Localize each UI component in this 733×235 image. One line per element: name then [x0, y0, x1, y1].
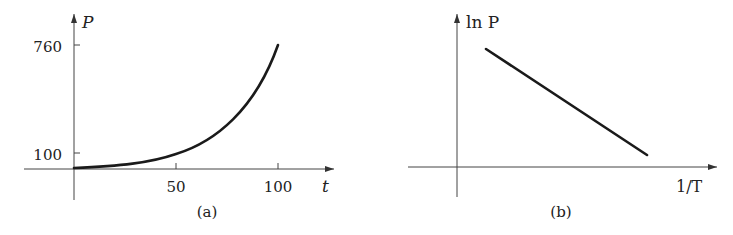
y-axis-label: P	[81, 12, 94, 32]
x-tick-label-50: 50	[166, 178, 185, 196]
x-tick-label-100: 100	[264, 178, 293, 196]
linear-trend-line	[486, 49, 647, 155]
panel-caption-a: (a)	[197, 203, 218, 221]
y-axis-label: ln P	[466, 12, 499, 32]
exponential-curve	[74, 45, 278, 168]
x-axis-label: 1/T	[676, 177, 703, 196]
chart-panel-a: P 760 100 50 100 t (a)	[24, 12, 334, 221]
y-tick-label-760: 760	[33, 38, 62, 56]
y-tick-label-100: 100	[33, 146, 62, 164]
chart-panel-b: ln P 1/T (b)	[408, 12, 717, 221]
panel-caption-b: (b)	[550, 203, 571, 221]
x-axis-label: t	[322, 176, 329, 196]
